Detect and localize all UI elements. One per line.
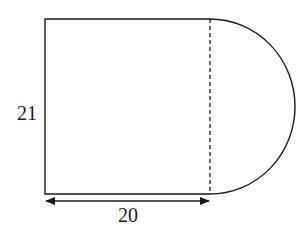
width-label: 20 (118, 205, 138, 225)
semicircle (210, 19, 295, 194)
rectangle (45, 19, 210, 194)
shape-drawing (0, 0, 307, 233)
composite-shape-diagram: 21 20 (0, 0, 307, 233)
height-label: 21 (17, 103, 37, 123)
